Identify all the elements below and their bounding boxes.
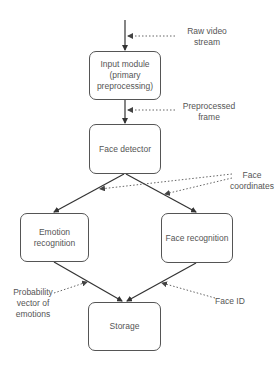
annotation-face-coordinates: Face coordinates	[222, 170, 280, 192]
node-face-detector: Face detector	[89, 124, 161, 174]
annotation-raw-video-stream: Raw video stream	[176, 26, 238, 48]
annotation-face-id: Face ID	[210, 296, 250, 307]
edge-emotion-storage	[54, 262, 122, 301]
node-label: Face detector	[99, 144, 151, 155]
node-face-recognition: Face recognition	[161, 213, 233, 263]
annotation-probability-vector: Probability vector of emotions	[8, 287, 58, 320]
node-input-module: Input module (primary preprocessing)	[89, 51, 161, 100]
node-label: Input module (primary preprocessing)	[92, 59, 158, 92]
node-storage: Storage	[88, 302, 161, 351]
node-label: Storage	[110, 321, 140, 332]
edge-recognition-storage	[127, 263, 196, 301]
edge-detector-emotion	[54, 174, 124, 212]
pointer-prob	[54, 282, 87, 293]
annotation-preprocessed-frame: Preprocessed frame	[172, 101, 246, 123]
node-label: Emotion recognition	[23, 227, 86, 249]
pointer-faceid	[162, 283, 215, 298]
node-label: Face recognition	[166, 233, 229, 244]
node-emotion-recognition: Emotion recognition	[20, 213, 89, 262]
diagram-canvas: Input module (primary preprocessing) Fac…	[0, 0, 280, 370]
